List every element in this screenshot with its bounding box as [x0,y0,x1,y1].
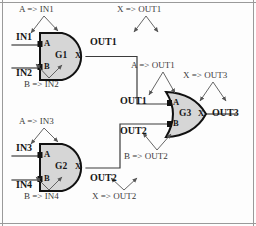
signal-label-out1-g1: OUT1 [90,36,117,47]
gate-g2-label-b: B [44,173,50,183]
leader-a-in1-left [31,16,44,33]
signal-label-out2-g2: OUT2 [90,172,117,183]
gate-g1-label-name: G1 [55,50,67,60]
leader-b-out2-right [157,134,171,150]
gate-g2-pin-a [38,152,43,158]
gate-g3-pin-a [167,100,172,106]
leader-x-out3-right [213,82,226,101]
gate-g1-label-x: X [75,50,81,60]
gate-g2-label-name: G2 [55,161,67,171]
annotation-b-out2: B => OUT2 [124,151,168,161]
gate-g3-label-b: B [173,118,179,128]
signal-label-out1-g3: OUT1 [120,95,147,106]
signal-label-in1: IN1 [16,31,32,42]
annotation-a-in1: A => IN1 [19,4,54,14]
signal-label-out3: OUT3 [212,107,239,118]
leader-a-in3-left [31,128,44,144]
annotation-b-in2: B => IN2 [24,79,59,89]
circuit-diagram-canvas: A => IN1 B => IN2 X => OUT1 A => IN3 B =… [0,0,256,226]
signal-label-in2: IN2 [16,67,32,78]
annotation-b-in4: B => IN4 [24,191,59,201]
gate-g2-label-x: X [75,161,81,171]
leader-x-out3-left [200,82,213,101]
signal-label-in4: IN4 [16,179,32,190]
annotation-a-in3: A => IN3 [19,116,54,126]
gate-g3-label-a: A [173,97,179,107]
gate-g3-label-name: G3 [179,108,191,118]
gate-g3-label-x: X [198,108,204,118]
signal-label-out2-g3: OUT2 [120,125,147,136]
leader-x-out2-right [124,178,137,190]
annotation-x-out1: X => OUT1 [117,4,161,14]
signal-label-in3: IN3 [16,142,32,153]
gate-g2-label-a: A [44,149,50,159]
annotation-x-out2: X => OUT2 [92,191,136,201]
gate-g1-label-b: B [44,61,50,71]
gate-g3-pin-b [167,121,172,127]
annotation-a-out1: A => OUT1 [131,60,175,70]
leader-a-out1-left [149,72,163,95]
leader-a-out1-right [163,72,175,93]
gate-g1-pin-a [38,41,43,47]
leader-a-in1-right [44,16,58,31]
leader-x-out1-left [134,16,146,32]
annotation-x-out3: X => OUT3 [183,70,227,80]
leader-x-out1-right [146,16,158,32]
leader-a-in3-right [44,128,58,142]
gate-g1-label-a: A [44,38,50,48]
